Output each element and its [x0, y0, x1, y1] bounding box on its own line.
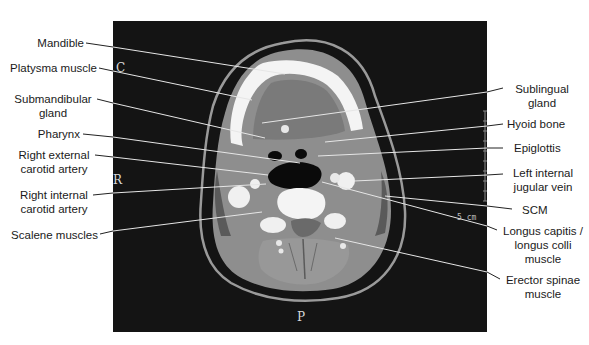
ct-axial-slice — [113, 21, 487, 332]
ct-anatomy-figure: C R P 5 cm — [0, 0, 589, 345]
ct-scan-panel: C R P 5 cm — [113, 21, 487, 332]
label-right-external-carotid-artery: Right external carotid artery — [14, 148, 94, 176]
label-submandibular-gland: Submandibular gland — [10, 92, 96, 120]
label-erector-spinae-muscle: Erector spinae muscle — [500, 273, 586, 301]
label-scalene-muscles: Scalene muscles — [0, 228, 98, 242]
label-right-internal-carotid-artery: Right internal carotid artery — [14, 188, 94, 216]
label-platysma-muscle: Platysma muscle — [0, 61, 97, 75]
label-epiglottis: Epiglottis — [514, 141, 561, 155]
label-longus-capitis-colli-muscle: Longus capitis / longus colli muscle — [497, 224, 589, 266]
orientation-marker-posterior: P — [297, 310, 305, 324]
scale-ticks — [483, 111, 487, 201]
orientation-marker-right: R — [113, 173, 122, 187]
label-left-internal-jugular-vein: Left internal jugular vein — [503, 166, 583, 194]
orientation-marker-anterior: C — [116, 61, 125, 75]
label-sublingual-gland: Sublingual gland — [503, 82, 581, 110]
label-scm: SCM — [522, 203, 548, 217]
scale-bar-label: 5 cm — [457, 213, 476, 222]
label-hyoid-bone: Hyoid bone — [507, 117, 565, 131]
label-pharynx: Pharynx — [0, 127, 80, 141]
label-mandible: Mandible — [0, 36, 84, 50]
